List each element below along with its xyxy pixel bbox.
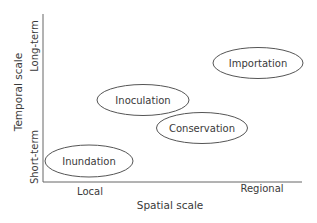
ellipse-importation: Importation bbox=[213, 48, 303, 79]
ellipse-conservation: Conservation bbox=[157, 113, 248, 144]
ellipse-label: Conservation bbox=[169, 123, 235, 134]
ellipse-label: Inundation bbox=[62, 156, 116, 167]
ellipse-inoculation: Inoculation bbox=[97, 85, 189, 116]
scale-diagram: Temporal scale Long-term Short-term Loca… bbox=[0, 0, 317, 223]
y-axis-low-label: Short-term bbox=[29, 130, 40, 184]
x-axis-high-label: Regional bbox=[240, 183, 283, 194]
ellipse-label: Importation bbox=[229, 58, 287, 69]
y-axis-title: Temporal scale bbox=[12, 53, 24, 132]
y-axis-high-label: Long-term bbox=[29, 20, 40, 72]
ellipse-inundation: Inundation bbox=[45, 145, 133, 177]
ellipse-label: Inoculation bbox=[115, 95, 170, 106]
x-axis-low-label: Local bbox=[77, 186, 103, 197]
x-axis-title: Spatial scale bbox=[137, 199, 204, 211]
